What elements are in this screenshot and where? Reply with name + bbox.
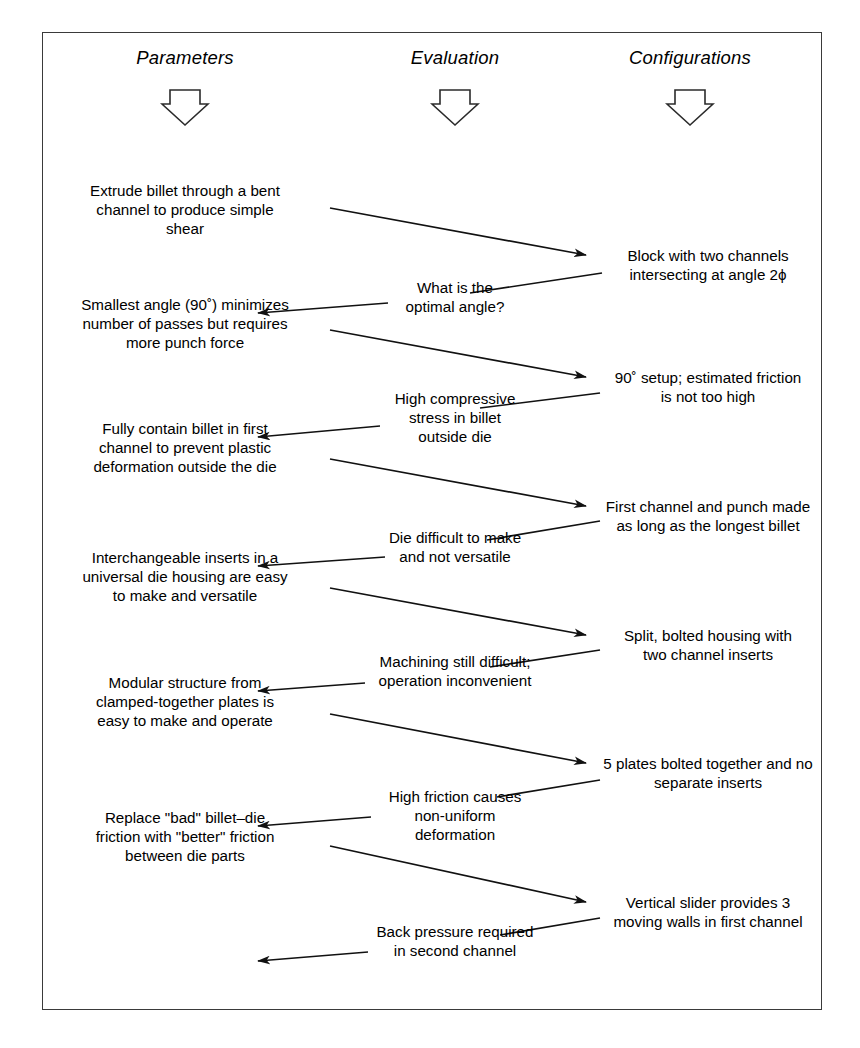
evaluation-node-6: Back pressure required in second channel: [340, 922, 570, 960]
evaluation-node-2: High compressive stress in billet outsid…: [340, 389, 570, 446]
evaluation-node-3: Die difficult to make and not versatile: [340, 528, 570, 566]
block-down-arrow-icon-evaluation: [430, 88, 480, 132]
configuration-node-6: Vertical slider provides 3 moving walls …: [573, 893, 843, 931]
parameter-node-5: Modular structure from clamped-together …: [20, 673, 350, 730]
diagram-canvas: Parameters Evaluation Configurations Ext…: [0, 0, 860, 1048]
evaluation-node-5: High friction causes non-uniform deforma…: [340, 787, 570, 844]
evaluation-node-1: What is the optimal angle?: [340, 278, 570, 316]
parameter-node-6: Replace "bad" billet–die friction with "…: [20, 808, 350, 865]
block-down-arrow-icon-parameters: [160, 88, 210, 132]
parameter-node-1: Extrude billet through a bent channel to…: [20, 181, 350, 238]
configuration-node-1: Block with two channels intersecting at …: [573, 246, 843, 284]
block-down-arrow-icon-configurations: [665, 88, 715, 132]
column-heading-parameters: Parameters: [136, 47, 234, 69]
parameter-node-3: Fully contain billet in first channel to…: [20, 419, 350, 476]
configuration-node-3: First channel and punch made as long as …: [573, 497, 843, 535]
configuration-node-5: 5 plates bolted together and no separate…: [573, 754, 843, 792]
parameter-node-4: Interchangeable inserts in a universal d…: [20, 548, 350, 605]
configuration-node-4: Split, bolted housing with two channel i…: [573, 626, 843, 664]
column-heading-evaluation: Evaluation: [411, 47, 499, 69]
evaluation-node-4: Machining still difficult; operation inc…: [340, 652, 570, 690]
configuration-node-2: 90˚ setup; estimated friction is not too…: [573, 368, 843, 406]
column-heading-configurations: Configurations: [629, 47, 751, 69]
parameter-node-2: Smallest angle (90˚) minimizes number of…: [20, 295, 350, 352]
